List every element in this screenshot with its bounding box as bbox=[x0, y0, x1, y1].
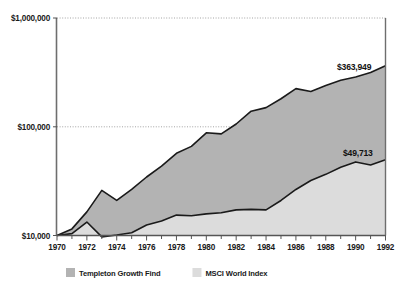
x-tick-label: 1990 bbox=[347, 243, 365, 252]
x-tick-label: 1986 bbox=[287, 243, 305, 252]
x-tick-label: 1976 bbox=[138, 243, 156, 252]
templeton-end-value-label: $363,949 bbox=[337, 62, 372, 72]
legend-label: MSCI World Index bbox=[205, 269, 268, 278]
investment-growth-chart: 1970197219741976197819801982198419861988… bbox=[0, 0, 409, 295]
x-tick-label: 1978 bbox=[168, 243, 186, 252]
msci-end-value-label: $49,713 bbox=[343, 148, 373, 158]
x-tick-label: 1992 bbox=[377, 243, 395, 252]
legend-swatch bbox=[192, 268, 201, 277]
legend-label: Templeton Growth Find bbox=[79, 269, 161, 278]
legend-swatch bbox=[66, 268, 75, 277]
x-tick-label: 1974 bbox=[108, 243, 126, 252]
x-tick-label: 1970 bbox=[48, 243, 66, 252]
y-tick-label: $10,000 bbox=[22, 232, 51, 241]
chart-canvas: 1970197219741976197819801982198419861988… bbox=[0, 0, 409, 295]
x-tick-label: 1984 bbox=[257, 243, 275, 252]
x-tick-label: 1972 bbox=[78, 243, 96, 252]
y-tick-label: $1,000,000 bbox=[11, 14, 51, 23]
y-tick-label: $100,000 bbox=[17, 123, 50, 132]
x-tick-label: 1988 bbox=[317, 243, 335, 252]
x-tick-label: 1980 bbox=[198, 243, 216, 252]
x-tick-label: 1982 bbox=[227, 243, 245, 252]
